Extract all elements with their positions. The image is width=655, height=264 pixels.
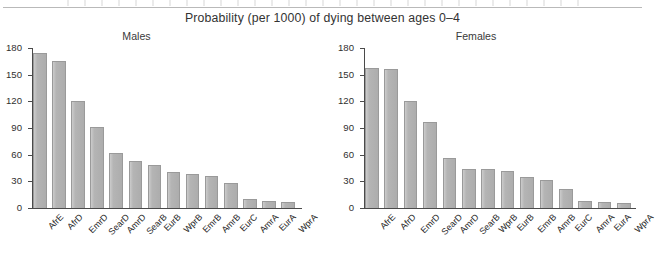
x-label-emrb: EmrB	[201, 212, 224, 235]
y-tick-label-30: 30	[11, 174, 22, 187]
panel-title-females: Females	[326, 30, 626, 42]
y-tick-label-30: 30	[343, 174, 354, 187]
x-label-emrd: EmrD	[419, 212, 442, 235]
panel-title-males: Males	[4, 30, 269, 42]
bar-slot	[71, 48, 85, 208]
bar-slot	[109, 48, 123, 208]
y-tick-label-0: 0	[349, 201, 354, 214]
y-tick-label-150: 150	[338, 68, 354, 81]
x-label-eura: EurA	[612, 212, 633, 233]
bar-slot	[384, 48, 398, 208]
bar-searb[interactable]	[129, 161, 143, 208]
bar-group-males	[33, 48, 302, 208]
bar-eurb[interactable]	[501, 171, 515, 208]
bar-slot	[617, 48, 631, 208]
plot-area-females: 1801501209060300 AfrEAfrDEmrDSearDAmrDSe…	[364, 48, 636, 208]
bar-amra[interactable]	[578, 201, 592, 208]
bar-slot	[540, 48, 554, 208]
bar-slot	[481, 48, 495, 208]
bar-emrb[interactable]	[520, 177, 534, 208]
bar-eurc[interactable]	[559, 189, 573, 208]
bar-seard[interactable]	[423, 122, 437, 208]
bar-slot	[404, 48, 418, 208]
bar-amrb[interactable]	[205, 176, 219, 208]
x-label-amra: AmrA	[258, 212, 281, 235]
y-tick-label-90: 90	[343, 121, 354, 134]
x-label-eurc: EurC	[573, 212, 594, 233]
x-label-wpra: WprA	[632, 212, 655, 235]
bar-slot	[462, 48, 476, 208]
x-label-eurb: EurB	[515, 212, 536, 233]
bar-emrb[interactable]	[186, 174, 200, 208]
bar-slot	[559, 48, 573, 208]
bar-slot	[578, 48, 592, 208]
x-label-eura: EurA	[276, 212, 297, 233]
x-label-group-females: AfrEAfrDEmrDSearDAmrDSearBWprBEurBEmrBAm…	[365, 208, 636, 264]
y-tick-label-0: 0	[17, 201, 22, 214]
bar-seard[interactable]	[90, 127, 104, 208]
bar-slot	[501, 48, 515, 208]
x-label-wprb: WprB	[182, 212, 205, 235]
bar-emrd[interactable]	[404, 101, 418, 208]
y-tick-label-120: 120	[6, 94, 22, 107]
plot-area-males: 1801501209060300 AfrEAfrDEmrDSearDAmrDSe…	[32, 48, 302, 208]
x-label-afre: AfrE	[46, 212, 65, 231]
bar-slot	[520, 48, 534, 208]
bar-afre[interactable]	[365, 68, 379, 208]
bar-slot	[90, 48, 104, 208]
bar-slot	[423, 48, 437, 208]
bar-slot	[186, 48, 200, 208]
bar-slot	[148, 48, 162, 208]
bar-slot	[243, 48, 257, 208]
bar-eurc[interactable]	[224, 183, 238, 208]
bar-slot	[365, 48, 379, 208]
figure-title: Probability (per 1000) of dying between …	[0, 11, 645, 25]
bar-afrd[interactable]	[52, 61, 66, 208]
y-tick-label-180: 180	[6, 41, 22, 54]
bar-wprb[interactable]	[481, 169, 495, 208]
y-tick-label-150: 150	[6, 68, 22, 81]
bar-amra[interactable]	[243, 199, 257, 208]
bar-amrd[interactable]	[443, 158, 457, 208]
x-label-emrd: EmrD	[86, 212, 109, 235]
x-label-afrd: AfrD	[66, 212, 86, 232]
x-label-eurc: EurC	[238, 212, 259, 233]
bar-slot	[33, 48, 47, 208]
y-tick-label-60: 60	[11, 148, 22, 161]
bar-slot	[167, 48, 181, 208]
bar-amrd[interactable]	[109, 153, 123, 208]
bar-slot	[281, 48, 295, 208]
x-label-group-males: AfrEAfrDEmrDSearDAmrDSearBEurBWprBEmrBAm…	[33, 208, 302, 264]
x-label-wpra: WprA	[296, 212, 319, 235]
bar-slot	[129, 48, 143, 208]
x-label-emrb: EmrB	[535, 212, 558, 235]
bar-wprb[interactable]	[167, 172, 181, 208]
bar-slot	[205, 48, 219, 208]
page-top-bleedthrough	[60, 0, 580, 6]
bar-searb[interactable]	[462, 169, 476, 208]
bar-eura[interactable]	[262, 201, 276, 208]
bar-slot	[224, 48, 238, 208]
bar-slot	[262, 48, 276, 208]
x-label-afrd: AfrD	[398, 212, 418, 232]
y-tick-label-180: 180	[338, 41, 354, 54]
page-top-rule	[3, 7, 642, 8]
bar-emrd[interactable]	[71, 101, 85, 208]
x-label-afre: AfrE	[378, 212, 397, 231]
bar-group-females	[365, 48, 636, 208]
bar-slot	[443, 48, 457, 208]
x-label-amrb: AmrB	[554, 212, 577, 235]
bar-slot	[52, 48, 66, 208]
y-tick-label-90: 90	[11, 121, 22, 134]
bar-amrb[interactable]	[540, 180, 554, 208]
y-tick-label-60: 60	[343, 148, 354, 161]
bar-afre[interactable]	[33, 53, 47, 208]
bar-slot	[598, 48, 612, 208]
bar-eurb[interactable]	[148, 165, 162, 208]
bar-afrd[interactable]	[384, 69, 398, 208]
y-tick-label-120: 120	[338, 94, 354, 107]
